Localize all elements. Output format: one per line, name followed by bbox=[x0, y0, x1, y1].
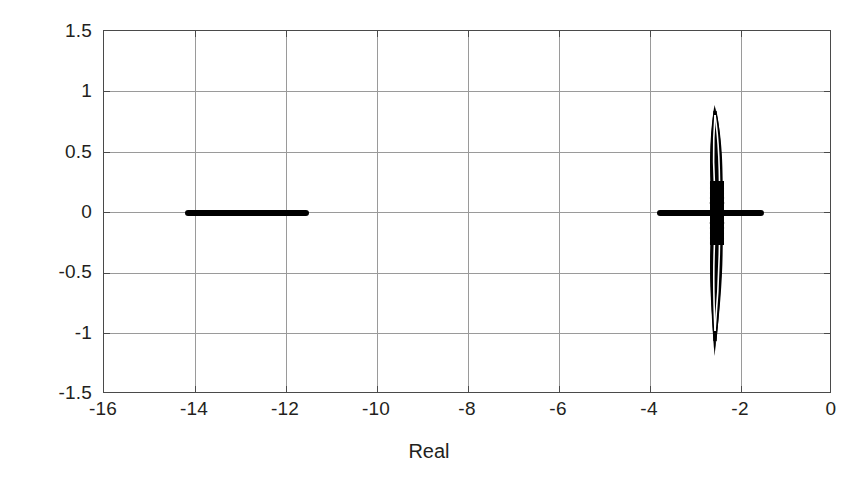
series-complex-conjugate-branch-lower bbox=[710, 213, 725, 356]
xtick-label: -6 bbox=[549, 398, 566, 420]
ytick-label: -0.5 bbox=[0, 261, 92, 283]
xtick-label: 0 bbox=[826, 398, 837, 420]
ytick-label: -1.5 bbox=[0, 382, 92, 404]
series-complex-conjugate-branch-upper bbox=[710, 105, 725, 213]
chart-figure: -16 -14 -12 -10 -8 -6 -4 -2 0 1.5 1 0.5 … bbox=[0, 0, 858, 487]
ytick-label: -1 bbox=[0, 322, 92, 344]
xtick-label: -10 bbox=[362, 398, 390, 420]
xtick-label: -16 bbox=[89, 398, 117, 420]
xtick-label: -12 bbox=[271, 398, 299, 420]
plot-area bbox=[103, 30, 831, 393]
ytick-label: 1 bbox=[0, 80, 92, 102]
ytick-label: 1.5 bbox=[0, 20, 92, 42]
ytick-label: 0 bbox=[0, 201, 92, 223]
locus-origin-cluster bbox=[713, 209, 721, 217]
xtick-label: -2 bbox=[731, 398, 748, 420]
x-axis-title: Real bbox=[0, 440, 858, 463]
xtick-label: -14 bbox=[180, 398, 208, 420]
pole-locus-plot bbox=[104, 31, 832, 394]
xtick-label: -4 bbox=[640, 398, 657, 420]
xtick-label: -8 bbox=[458, 398, 475, 420]
ytick-label: 0.5 bbox=[0, 141, 92, 163]
data-layer bbox=[104, 31, 830, 392]
